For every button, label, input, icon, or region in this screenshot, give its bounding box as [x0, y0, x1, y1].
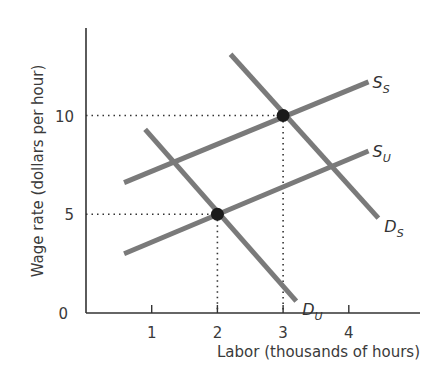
curves [124, 54, 378, 301]
x-tick-label: 2 [213, 324, 223, 342]
dotted-guides [86, 116, 283, 314]
y-tick-label: 10 [55, 108, 74, 126]
labor-market-chart: 1234 0510 SSSUDSDU Labor (thousands of h… [0, 0, 438, 389]
y-ticks: 0510 [55, 108, 74, 324]
y-tick-label: 5 [64, 206, 74, 224]
equilibrium-points [211, 109, 290, 221]
equilibrium-dot [277, 109, 290, 122]
x-tick-label: 4 [344, 324, 354, 342]
label-d-u: DU [302, 300, 322, 323]
curve-d-s [231, 54, 379, 218]
label-s-u: SU [373, 142, 391, 165]
axes [86, 28, 420, 313]
equilibrium-dot [211, 208, 224, 221]
y-tick-label: 0 [58, 305, 68, 323]
y-axis-title: Wage rate (dollars per hour) [29, 65, 47, 278]
x-axis-title: Labor (thousands of hours) [217, 343, 420, 361]
curve-labels: SSSUDSDU [302, 73, 403, 323]
x-tick-label: 3 [278, 324, 288, 342]
label-s-s: SS [373, 73, 390, 96]
label-d-s: DS [384, 217, 403, 240]
x-tick-label: 1 [147, 324, 157, 342]
